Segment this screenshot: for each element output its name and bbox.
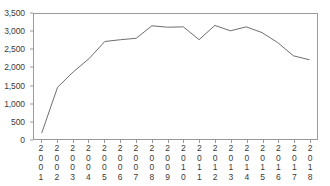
y-tick-label: 500 — [11, 118, 25, 127]
y-tick-label: 1,500 — [4, 81, 25, 90]
y-tick-label: 3,500 — [4, 9, 25, 18]
x-tick-label: 2015 — [257, 144, 269, 182]
x-tick-label: 2003 — [67, 144, 79, 182]
x-tick-label: 2011 — [193, 144, 205, 182]
x-tick-label: 2006 — [114, 144, 126, 182]
x-tick-label: 2016 — [272, 144, 284, 182]
x-axis: 2001200220032004200520062007200820092010… — [33, 144, 318, 186]
y-tick-label: 0 — [20, 136, 25, 145]
x-tick-label: 2001 — [35, 144, 47, 182]
x-tick-label: 2009 — [162, 144, 174, 182]
x-tick-label: 2010 — [177, 144, 189, 182]
x-tick-label: 2013 — [225, 144, 237, 182]
line-chart: 05001,0001,5002,0002,5003,0003,500 20012… — [0, 0, 330, 186]
y-axis: 05001,0001,5002,0002,5003,0003,500 — [0, 0, 31, 186]
x-tick-label: 2012 — [209, 144, 221, 182]
plot-area — [33, 13, 318, 140]
x-tick-label: 2014 — [241, 144, 253, 182]
x-tick-label: 2008 — [146, 144, 158, 182]
y-tick-label: 3,000 — [4, 27, 25, 36]
y-tick-label: 2,000 — [4, 63, 25, 72]
y-tick-label: 2,500 — [4, 45, 25, 54]
x-tick-label: 2018 — [304, 144, 316, 182]
series-line — [34, 14, 317, 139]
x-tick-label: 2004 — [82, 144, 94, 182]
y-tick-label: 1,000 — [4, 99, 25, 108]
x-tick-label: 2005 — [98, 144, 110, 182]
data-line — [42, 25, 309, 132]
x-tick-label: 2002 — [51, 144, 63, 182]
x-tick-label: 2017 — [288, 144, 300, 182]
x-tick-label: 2007 — [130, 144, 142, 182]
